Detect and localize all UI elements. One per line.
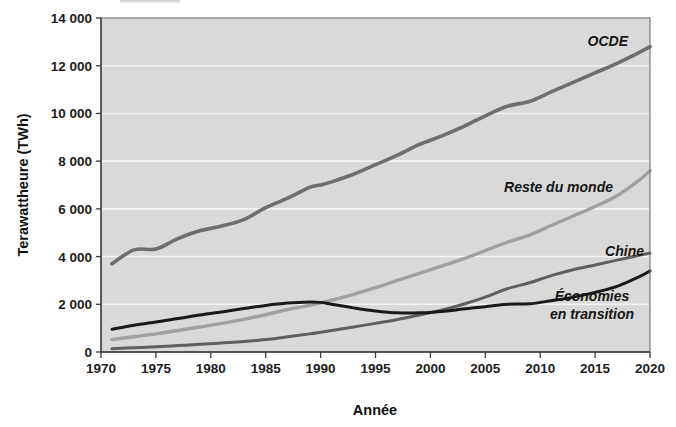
series-label-ocde: OCDE <box>588 33 629 49</box>
x-tick-label: 1995 <box>360 361 391 376</box>
electricity-generation-line-chart: 02 0004 0006 0008 00010 00012 00014 000 … <box>0 0 676 427</box>
x-tick-label: 2005 <box>470 361 501 376</box>
y-tick-label: 4 000 <box>58 250 92 265</box>
y-tick-label: 0 <box>84 345 92 360</box>
x-tick-label: 2000 <box>415 361 445 376</box>
y-tick-label: 6 000 <box>58 202 92 217</box>
x-axis-title: Année <box>353 402 397 418</box>
page-artifact-smudge <box>120 0 180 4</box>
x-tick-label: 1975 <box>141 361 172 376</box>
x-tick-label: 1985 <box>251 361 282 376</box>
x-tick-label: 1980 <box>196 361 226 376</box>
y-axis-title: Terawattheure (TWh) <box>15 113 31 256</box>
line-chart-figure: 02 0004 0006 0008 00010 00012 00014 000 … <box>0 0 676 427</box>
x-tick-label: 2020 <box>635 361 665 376</box>
x-tick-label: 1970 <box>86 361 116 376</box>
x-tick-label: 2010 <box>525 361 555 376</box>
x-tick-label: 1990 <box>306 361 336 376</box>
y-tick-label: 12 000 <box>51 59 92 74</box>
series-label-reste-du-monde: Reste du monde <box>504 179 613 195</box>
y-tick-label: 10 000 <box>51 106 92 121</box>
series-label-economies-line1: Économies <box>555 288 630 304</box>
y-tick-label: 8 000 <box>58 154 92 169</box>
x-axis-tick-group: 1970197519801985199019952000200520102015… <box>86 352 665 376</box>
y-tick-label: 2 000 <box>58 297 92 312</box>
y-axis-tick-group: 02 0004 0006 0008 00010 00012 00014 000 <box>51 11 101 360</box>
y-tick-label: 14 000 <box>51 11 92 26</box>
series-label-economies-line2: en transition <box>550 306 634 322</box>
x-tick-label: 2015 <box>580 361 611 376</box>
series-label-chine: Chine <box>605 243 644 259</box>
